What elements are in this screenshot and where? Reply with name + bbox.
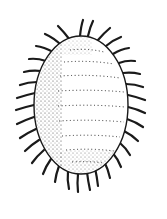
illustration: [0, 0, 167, 219]
insect-drawing: [0, 0, 167, 219]
